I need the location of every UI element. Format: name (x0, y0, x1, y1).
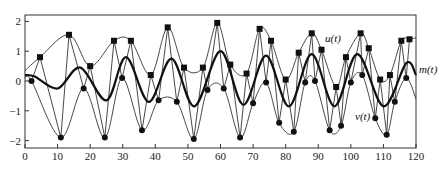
x-tick-label: 80 (280, 150, 292, 162)
chart: 0102030405060708090100110120 210−1−2 u(t… (0, 0, 441, 173)
square-marker (268, 38, 274, 44)
x-tick-label: 0 (22, 150, 28, 162)
square-marker (366, 45, 372, 51)
lower-envelope-v (25, 72, 416, 139)
square-marker (309, 30, 315, 36)
y-tick-label: −1 (9, 105, 21, 117)
label-u: u(t) (325, 32, 341, 45)
circle-marker (174, 99, 180, 105)
square-marker (181, 65, 187, 71)
circle-marker (139, 127, 145, 133)
plot-frame (25, 15, 416, 148)
y-axis-ticks: 210−1−2 (9, 15, 29, 146)
square-marker (257, 26, 263, 32)
circle-marker (102, 135, 108, 141)
x-axis-ticks: 0102030405060708090100110120 (22, 144, 425, 162)
x-tick-label: 40 (150, 150, 162, 162)
x-tick-label: 60 (215, 150, 227, 162)
square-marker (406, 36, 412, 42)
x-tick-label: 90 (313, 150, 325, 162)
square-marker (296, 50, 302, 56)
circle-marker (204, 87, 210, 93)
square-marker (37, 54, 43, 60)
circle-marker (403, 75, 409, 81)
x-tick-label: 50 (182, 150, 194, 162)
square-marker (343, 54, 349, 60)
circle-marker (191, 136, 197, 142)
circle-marker (156, 97, 162, 103)
circle-marker (348, 79, 354, 85)
square-marker (333, 84, 339, 90)
x-tick-label: 70 (248, 150, 260, 162)
circle-marker (276, 120, 282, 126)
square-marker (377, 77, 383, 83)
circle-marker (338, 123, 344, 129)
square-marker (200, 65, 206, 71)
square-marker (128, 38, 134, 44)
x-tick-label: 30 (117, 150, 129, 162)
label-m: m(t) (419, 63, 438, 76)
x-tick-label: 100 (343, 150, 360, 162)
square-marker (214, 20, 220, 26)
label-v: v(t) (355, 110, 371, 123)
circle-marker (392, 99, 398, 105)
axes-box (25, 15, 416, 148)
x-tick-label: 10 (52, 150, 64, 162)
square-marker (148, 72, 154, 78)
square-marker (398, 38, 404, 44)
circle-marker (359, 72, 365, 78)
square-marker (87, 63, 93, 69)
square-marker (227, 62, 233, 68)
square-marker (283, 77, 289, 83)
circle-marker (384, 132, 390, 138)
circle-marker (291, 129, 297, 135)
square-marker (165, 24, 171, 30)
square-marker (66, 32, 72, 38)
circle-marker (58, 135, 64, 141)
y-tick-label: −2 (9, 135, 21, 147)
y-tick-label: 1 (16, 45, 22, 57)
x-tick-label: 120 (408, 150, 425, 162)
square-marker (319, 47, 325, 53)
square-marker (387, 72, 393, 78)
y-tick-label: 0 (16, 75, 22, 87)
circle-marker (237, 135, 243, 141)
y-tick-label: 2 (16, 15, 22, 27)
circle-marker (250, 100, 256, 106)
x-tick-label: 110 (375, 150, 392, 162)
circle-marker (29, 78, 35, 84)
circle-marker (221, 85, 227, 91)
x-tick-label: 20 (85, 150, 97, 162)
square-marker (358, 30, 364, 36)
circle-marker (372, 115, 378, 121)
square-marker (244, 71, 250, 77)
circle-marker (263, 79, 269, 85)
circle-marker (302, 79, 308, 85)
circle-marker (327, 127, 333, 133)
circle-marker (312, 78, 318, 84)
circle-marker (119, 75, 125, 81)
square-marker (111, 38, 117, 44)
circle-marker (81, 85, 87, 91)
